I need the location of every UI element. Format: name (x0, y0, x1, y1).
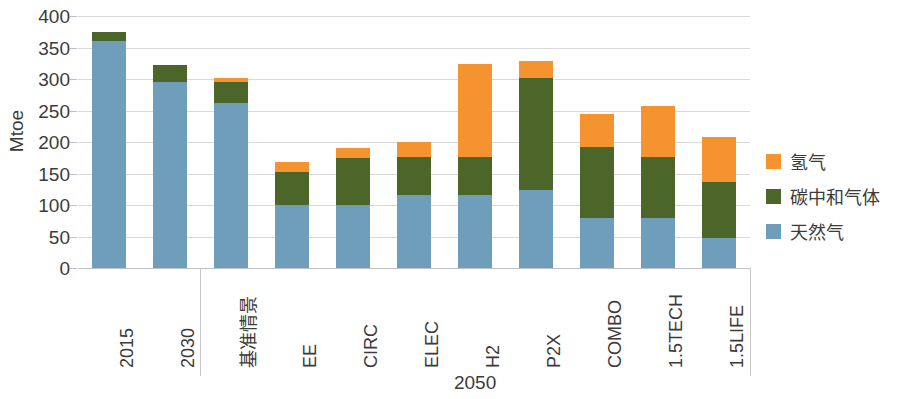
y-axis-tick-mark (70, 237, 77, 238)
bar-segment-天然气[interactable] (92, 41, 126, 268)
bar-1.5LIFE[interactable] (702, 137, 736, 268)
bar-segment-氢气[interactable] (519, 61, 553, 77)
x-axis-label-H2: H2 (484, 345, 502, 368)
x-axis-label-slot: 1.5LIFE (689, 272, 750, 372)
bar-segment-天然气[interactable] (519, 190, 553, 268)
plot-area (78, 16, 750, 268)
bar-segment-氢气[interactable] (458, 64, 492, 157)
y-axis-tick-mark (70, 79, 77, 80)
bar-2015[interactable] (92, 32, 126, 268)
bar-segment-天然气[interactable] (275, 205, 309, 268)
bar-EE[interactable] (275, 162, 309, 268)
bar-ELEC[interactable] (397, 142, 431, 268)
legend-swatch-icon (766, 154, 781, 169)
bar-segment-碳中和气体[interactable] (92, 32, 126, 41)
bar-segment-碳中和气体[interactable] (641, 157, 675, 218)
x-axis-group-label: 2050 (200, 372, 750, 394)
bar-slot (689, 16, 750, 268)
x-axis-label-slot: 2015 (78, 272, 139, 372)
bar-slot (506, 16, 567, 268)
bar-segment-天然气[interactable] (153, 82, 187, 268)
bar-slot (628, 16, 689, 268)
y-axis-tick-mark (70, 205, 77, 206)
x-axis-label-slot: CIRC (322, 272, 383, 372)
legend-label: 氢气 (790, 148, 826, 174)
bar-segment-碳中和气体[interactable] (702, 182, 736, 238)
bar-slot (445, 16, 506, 268)
x-axis-label-slot: ELEC (383, 272, 444, 372)
x-axis-label-EE: EE (301, 344, 319, 368)
x-axis-label-slot: COMBO (567, 272, 628, 372)
y-axis-tick-mark (70, 142, 77, 143)
x-axis-label-基准情景: 基准情景 (240, 296, 258, 368)
y-axis-tick-mark (70, 268, 77, 269)
bar-segment-天然气[interactable] (580, 218, 614, 268)
legend-label: 天然气 (790, 218, 844, 244)
bar-segment-碳中和气体[interactable] (275, 172, 309, 205)
chart-legend: 氢气碳中和气体天然气 (766, 152, 896, 257)
bar-segment-碳中和气体[interactable] (519, 78, 553, 190)
bar-segment-碳中和气体[interactable] (458, 157, 492, 195)
y-axis-tick-mark (70, 16, 77, 17)
legend-label: 碳中和气体 (790, 183, 880, 209)
bar-segment-天然气[interactable] (397, 195, 431, 268)
x-axis-label-slot: P2X (506, 272, 567, 372)
bar-slot (139, 16, 200, 268)
y-axis-tick-mark (70, 111, 77, 112)
y-axis-tick-mark (70, 174, 77, 175)
x-axis-label-COMBO: COMBO (606, 300, 624, 368)
bar-1.5TECH[interactable] (641, 106, 675, 268)
bar-segment-氢气[interactable] (580, 114, 614, 147)
bar-segment-天然气[interactable] (641, 218, 675, 268)
bar-segment-天然气[interactable] (458, 195, 492, 268)
group-separator (750, 268, 751, 376)
stacked-bar-chart: Mtoe 400350300250200150100500 20152030基准… (0, 0, 899, 399)
bar-slot (200, 16, 261, 268)
bar-segment-碳中和气体[interactable] (580, 147, 614, 218)
legend-item-碳中和气体[interactable]: 碳中和气体 (766, 187, 896, 205)
bar-segment-碳中和气体[interactable] (214, 82, 248, 103)
bar-CIRC[interactable] (336, 148, 370, 268)
x-axis-label-1.5LIFE: 1.5LIFE (728, 305, 746, 368)
y-axis-tick-mark (70, 48, 77, 49)
bar-2030[interactable] (153, 65, 187, 268)
legend-swatch-icon (766, 189, 781, 204)
legend-item-天然气[interactable]: 天然气 (766, 222, 896, 240)
bar-segment-天然气[interactable] (702, 238, 736, 268)
bar-H2[interactable] (458, 64, 492, 268)
bar-segment-天然气[interactable] (214, 103, 248, 268)
x-axis-label-CIRC: CIRC (362, 324, 380, 368)
bar-segment-氢气[interactable] (397, 142, 431, 157)
bar-segment-天然气[interactable] (336, 205, 370, 268)
x-axis-label-P2X: P2X (545, 334, 563, 368)
group-separator (200, 268, 201, 376)
bar-COMBO[interactable] (580, 114, 614, 268)
bar-segment-碳中和气体[interactable] (397, 157, 431, 195)
x-axis-label-2030: 2030 (179, 328, 197, 368)
bar-slot (322, 16, 383, 268)
x-axis-label-ELEC: ELEC (423, 321, 441, 368)
x-axis-label-slot: 2030 (139, 272, 200, 372)
bar-slot (567, 16, 628, 268)
x-axis-label-slot: 基准情景 (200, 272, 261, 372)
x-axis-line (78, 268, 750, 269)
bar-基准情景[interactable] (214, 78, 248, 268)
bar-slot (78, 16, 139, 268)
bar-P2X[interactable] (519, 61, 553, 268)
x-axis-label-2015: 2015 (118, 328, 136, 368)
y-axis-tick-marks (0, 16, 78, 268)
legend-swatch-icon (766, 224, 781, 239)
x-axis-category-labels: 20152030基准情景EECIRCELECH2P2XCOMBO1.5TECH1… (78, 272, 750, 372)
bar-segment-氢气[interactable] (275, 162, 309, 171)
bar-segment-氢气[interactable] (702, 137, 736, 182)
bar-slot (383, 16, 444, 268)
bar-segment-碳中和气体[interactable] (336, 158, 370, 205)
x-axis-label-slot: H2 (445, 272, 506, 372)
bar-segment-碳中和气体[interactable] (153, 65, 187, 82)
bar-segment-氢气[interactable] (336, 148, 370, 158)
legend-item-氢气[interactable]: 氢气 (766, 152, 896, 170)
x-axis-label-1.5TECH: 1.5TECH (667, 294, 685, 368)
x-axis-label-slot: EE (261, 272, 322, 372)
bar-slot (261, 16, 322, 268)
bar-segment-氢气[interactable] (641, 106, 675, 157)
